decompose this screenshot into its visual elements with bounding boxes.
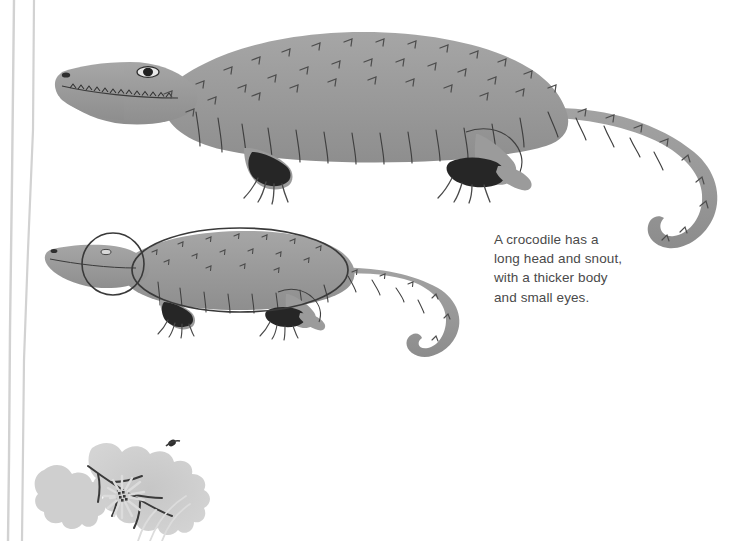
crocodile-snout xyxy=(55,64,124,120)
plant-stems-decoration xyxy=(8,0,34,541)
crocodile-rear-foot-grey xyxy=(496,166,532,190)
figure-caption: A crocodile has a long head and snout, w… xyxy=(494,230,634,307)
crocodile-tail xyxy=(556,108,717,248)
annotated-crocodile-eye xyxy=(101,249,111,254)
crocodile-eye xyxy=(137,67,159,78)
annotated-crocodile-nostril xyxy=(51,249,58,253)
crocodile-nostril xyxy=(62,72,70,77)
crocodile-full-body xyxy=(55,32,717,248)
crocodile-annotated-proportions xyxy=(45,228,460,357)
illustration-page: A crocodile has a long head and snout, w… xyxy=(0,0,740,541)
crocodile-body xyxy=(164,32,568,162)
